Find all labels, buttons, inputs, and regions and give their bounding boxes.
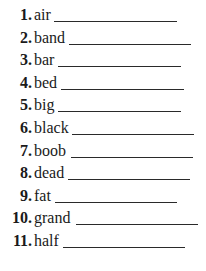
item-number: 8.: [20, 162, 32, 184]
item-number: 2.: [20, 27, 32, 49]
item-number: 11.: [13, 230, 32, 252]
item-number: 5.: [20, 94, 32, 116]
item-word: band: [34, 27, 65, 49]
list-item: 4.bed: [0, 72, 206, 94]
item-word: bed: [34, 72, 57, 94]
item-word: half: [34, 230, 59, 252]
item-word: black: [34, 117, 69, 139]
item-word: air: [34, 4, 51, 26]
item-number: 9.: [20, 185, 32, 207]
answer-blank[interactable]: [54, 21, 177, 22]
item-word: dead: [34, 162, 64, 184]
answer-blank[interactable]: [61, 89, 184, 90]
item-word: boob: [34, 140, 66, 162]
answer-blank[interactable]: [69, 44, 191, 45]
item-word: grand: [34, 207, 70, 229]
answer-blank[interactable]: [72, 134, 194, 135]
answer-blank[interactable]: [63, 247, 185, 248]
list-item: 1.air: [0, 4, 206, 26]
item-number: 7.: [20, 140, 32, 162]
list-item: 6.black: [0, 117, 206, 139]
item-number: 3.: [20, 49, 32, 71]
answer-blank[interactable]: [68, 179, 190, 180]
list-item: 5.big: [0, 94, 206, 116]
answer-blank[interactable]: [76, 224, 198, 225]
list-item: 7.boob: [0, 140, 206, 162]
list-item: 8.dead: [0, 162, 206, 184]
list-item: 11.half: [0, 230, 206, 252]
answer-blank[interactable]: [58, 111, 181, 112]
list-item: 2.band: [0, 27, 206, 49]
item-number: 1.: [20, 4, 32, 26]
item-number: 4.: [20, 72, 32, 94]
item-word: fat: [34, 185, 51, 207]
item-number: 10.: [12, 207, 32, 229]
item-word: bar: [34, 49, 54, 71]
list-item: 9.fat: [0, 185, 206, 207]
item-word: big: [34, 94, 54, 116]
list-item: 10.grand: [0, 207, 206, 229]
list-item: 3.bar: [0, 49, 206, 71]
answer-blank[interactable]: [55, 202, 177, 203]
answer-blank[interactable]: [58, 66, 181, 67]
item-number: 6.: [20, 117, 32, 139]
answer-blank[interactable]: [71, 157, 193, 158]
